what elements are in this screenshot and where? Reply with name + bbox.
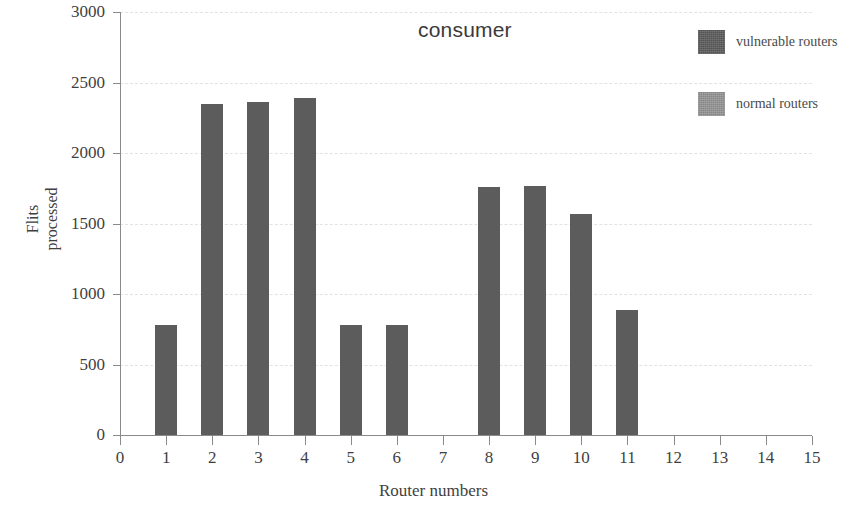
x-tick-label-0: 0 xyxy=(100,448,140,468)
y-tick-label-0: 0 xyxy=(40,425,105,445)
gridline-1000 xyxy=(120,294,812,295)
legend-label-1: normal routers xyxy=(736,96,818,112)
legend-item-vulnerable-routers[interactable]: vulnerable routers xyxy=(698,30,867,54)
legend-item-normal-routers[interactable]: normal routers xyxy=(698,92,867,116)
x-tick-1 xyxy=(166,436,167,445)
bar-router-8 xyxy=(478,187,500,435)
y-tick-1500 xyxy=(113,224,121,225)
chart-title: consumer xyxy=(418,18,512,42)
legend-swatch-icon-1 xyxy=(698,92,725,116)
bar-router-11 xyxy=(616,310,638,435)
x-tick-label-1: 1 xyxy=(146,448,186,468)
x-tick-11 xyxy=(627,436,628,445)
x-tick-label-6: 6 xyxy=(377,448,417,468)
x-tick-label-13: 13 xyxy=(700,448,740,468)
x-tick-label-11: 11 xyxy=(607,448,647,468)
x-tick-13 xyxy=(720,436,721,445)
y-tick-label-1000: 1000 xyxy=(40,284,105,304)
x-axis-title: Router numbers xyxy=(0,481,867,501)
gridline-500 xyxy=(120,365,812,366)
x-tick-label-2: 2 xyxy=(192,448,232,468)
y-tick-500 xyxy=(113,365,121,366)
y-tick-label-3000: 3000 xyxy=(40,2,105,22)
y-tick-2000 xyxy=(113,153,121,154)
x-tick-7 xyxy=(443,436,444,445)
x-tick-label-7: 7 xyxy=(423,448,463,468)
x-axis-line xyxy=(120,435,812,436)
x-tick-label-14: 14 xyxy=(746,448,786,468)
legend-label-0: vulnerable routers xyxy=(736,34,837,50)
x-tick-8 xyxy=(489,436,490,445)
y-axis-title-line-2: processed xyxy=(42,159,61,279)
x-tick-4 xyxy=(305,436,306,445)
legend-swatch-icon-0 xyxy=(698,30,725,54)
x-tick-5 xyxy=(351,436,352,445)
bar-router-9 xyxy=(524,186,546,435)
x-tick-label-3: 3 xyxy=(238,448,278,468)
x-tick-3 xyxy=(258,436,259,445)
bar-router-4 xyxy=(294,98,316,435)
x-tick-label-10: 10 xyxy=(561,448,601,468)
y-tick-1000 xyxy=(113,294,121,295)
x-tick-9 xyxy=(535,436,536,445)
bar-router-3 xyxy=(247,102,269,435)
x-tick-6 xyxy=(397,436,398,445)
x-tick-14 xyxy=(766,436,767,445)
bar-router-10 xyxy=(570,214,592,435)
y-tick-label-500: 500 xyxy=(40,355,105,375)
x-tick-label-9: 9 xyxy=(515,448,555,468)
x-tick-label-8: 8 xyxy=(469,448,509,468)
x-tick-label-15: 15 xyxy=(792,448,832,468)
x-tick-10 xyxy=(581,436,582,445)
bar-router-1 xyxy=(155,325,177,435)
x-tick-0 xyxy=(120,436,121,445)
y-tick-label-2500: 2500 xyxy=(40,73,105,93)
gridline-3000 xyxy=(120,12,812,13)
bar-router-5 xyxy=(340,325,362,435)
y-axis-title-line-1: Flits xyxy=(23,159,42,279)
y-tick-3000 xyxy=(113,12,121,13)
y-tick-2500 xyxy=(113,83,121,84)
x-tick-label-12: 12 xyxy=(654,448,694,468)
bar-chart: 300025002000150010005000 012345678910111… xyxy=(0,0,867,506)
x-tick-12 xyxy=(674,436,675,445)
x-tick-15 xyxy=(812,436,813,445)
y-axis-title: Flits processed xyxy=(23,159,61,279)
x-tick-label-4: 4 xyxy=(285,448,325,468)
bar-router-6 xyxy=(386,325,408,435)
chart-legend: vulnerable routersnormal routers xyxy=(698,30,867,154)
gridline-1500 xyxy=(120,224,812,225)
x-tick-label-5: 5 xyxy=(331,448,371,468)
x-tick-2 xyxy=(212,436,213,445)
bar-router-2 xyxy=(201,104,223,435)
